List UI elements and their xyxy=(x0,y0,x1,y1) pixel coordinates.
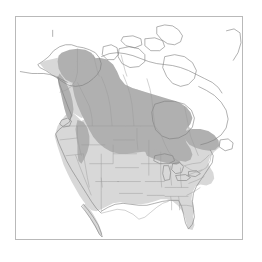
outline-arctic-island-banks xyxy=(102,45,118,60)
north-america-range-map xyxy=(16,17,242,239)
outline-arctic-island-melville xyxy=(121,36,142,48)
outline-greenland xyxy=(226,29,241,61)
outline-newfoundland xyxy=(219,139,233,151)
outline-arctic-island-baffin xyxy=(163,55,197,87)
outline-arctic-island-ellesmere xyxy=(157,25,183,45)
figure-page: Breeding range Year-round / overall rang… xyxy=(0,0,262,262)
outline-arctic-island-victoria xyxy=(118,47,145,68)
map-frame: Breeding range Year-round / overall rang… xyxy=(15,16,243,240)
